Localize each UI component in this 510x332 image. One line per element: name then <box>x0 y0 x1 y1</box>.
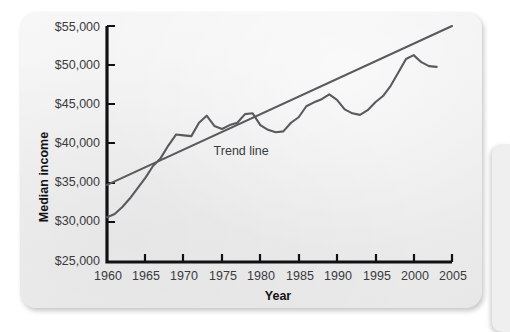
y-axis-tick-labels: $55,000 $50,000 $45,000 $40,000 $35,000 … <box>55 20 100 268</box>
axis-lines <box>107 26 452 262</box>
adjacent-page-edge <box>492 144 510 332</box>
x-tick-label: 1985 <box>286 269 314 283</box>
x-tick-label: 1995 <box>363 269 391 283</box>
x-tick-label: 1965 <box>132 269 160 283</box>
x-tick-label: 1975 <box>209 269 237 283</box>
y-tick-label: $50,000 <box>55 58 100 72</box>
y-tick-label: $55,000 <box>55 20 100 34</box>
y-tick-label: $30,000 <box>55 214 100 228</box>
trend-line-annotation-label: Trend line <box>214 144 269 158</box>
x-axis-title: Year <box>265 289 292 303</box>
y-axis-title: Median income <box>37 132 51 222</box>
y-tick-label: $40,000 <box>55 136 100 150</box>
x-tick-label: 1980 <box>247 269 275 283</box>
y-tick-label: $35,000 <box>55 175 100 189</box>
y-tick-label: $45,000 <box>55 97 100 111</box>
x-axis-tick-labels: 1960 1965 1970 1975 1980 1985 1990 1995 … <box>94 269 467 283</box>
x-tick-label: 1990 <box>324 269 352 283</box>
median-income-series-line <box>107 55 437 217</box>
figure-card: $55,000 $50,000 $45,000 $40,000 $35,000 … <box>20 12 482 308</box>
y-tick-label: $25,000 <box>55 254 100 268</box>
trend-line-series <box>107 26 452 185</box>
x-tick-label: 1970 <box>170 269 198 283</box>
median-income-line-chart: $55,000 $50,000 $45,000 $40,000 $35,000 … <box>20 12 482 308</box>
x-tick-label: 2000 <box>401 269 429 283</box>
x-tick-label: 2005 <box>439 269 467 283</box>
x-tick-label: 1960 <box>94 269 122 283</box>
